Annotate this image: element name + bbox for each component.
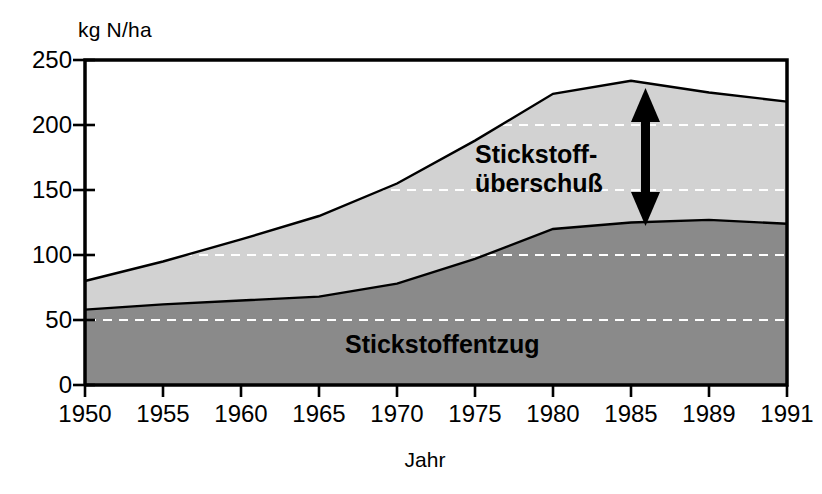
x-axis-ticks xyxy=(85,385,787,397)
nitrogen-balance-area-chart: kg N/ha 250 200 150 100 50 0 1950 1955 1… xyxy=(0,0,822,494)
x-axis-title-text: Jahr xyxy=(377,448,446,471)
surplus-area-label-line1: Stickstoff- xyxy=(475,140,603,169)
plot-area xyxy=(0,0,822,494)
surplus-area-label: Stickstoff- überschuß xyxy=(475,140,603,198)
uptake-area-label: Stickstoffentzug xyxy=(345,330,539,359)
surplus-area-label-line2: überschuß xyxy=(475,169,603,198)
x-axis-title: Jahr xyxy=(0,448,822,472)
